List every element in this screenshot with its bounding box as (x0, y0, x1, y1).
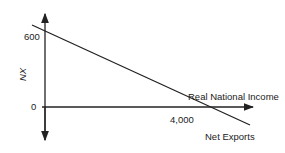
x-tick-4000: 4,000 (170, 114, 194, 125)
line-label-net-exports: Net Exports (205, 131, 255, 142)
y-axis-label: NX (17, 67, 28, 81)
y-tick-0: 0 (31, 101, 36, 112)
net-exports-chart: 600 0 NX Real National Income 4,000 Net … (0, 0, 285, 153)
x-axis-label: Real National Income (188, 91, 279, 102)
y-tick-600: 600 (24, 31, 40, 42)
net-exports-line (32, 25, 250, 125)
